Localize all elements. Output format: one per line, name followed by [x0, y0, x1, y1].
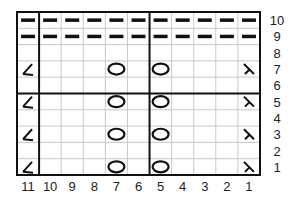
left-lean-decrease-icon: [23, 64, 33, 75]
column-label: 11: [21, 179, 35, 194]
knitting-chart: 1110987654321 10987654321: [0, 0, 293, 206]
yarn-over-circle-icon: [108, 129, 124, 140]
right-lean-decrease-icon: [244, 129, 254, 139]
column-label: 7: [113, 179, 120, 194]
row-label: 6: [273, 78, 280, 93]
column-label: 5: [157, 179, 164, 194]
row-label: 1: [273, 160, 280, 175]
column-label: 10: [43, 179, 57, 194]
yarn-over-circle-icon: [108, 64, 124, 75]
yarn-over-circle-icon: [153, 64, 169, 75]
yarn-over-circle-icon: [108, 96, 124, 107]
left-lean-decrease-icon: [23, 97, 33, 108]
row-label: 4: [273, 111, 280, 126]
row-label: 2: [273, 144, 280, 159]
chart-symbols: [21, 20, 256, 173]
row-label: 9: [273, 29, 280, 44]
column-label: 4: [179, 179, 186, 194]
column-label: 6: [135, 179, 142, 194]
column-label: 2: [223, 179, 230, 194]
yarn-over-circle-icon: [153, 161, 169, 172]
column-label: 8: [91, 179, 98, 194]
right-lean-decrease-icon: [244, 162, 254, 172]
left-lean-decrease-icon: [23, 162, 33, 173]
row-label: 7: [273, 62, 280, 77]
right-lean-decrease-icon: [244, 97, 254, 107]
column-labels: 1110987654321: [21, 179, 252, 194]
yarn-over-circle-icon: [108, 161, 124, 172]
column-label: 9: [69, 179, 76, 194]
left-lean-decrease-icon: [23, 129, 33, 140]
right-lean-decrease-icon: [244, 64, 254, 74]
column-label: 3: [201, 179, 208, 194]
row-labels: 10987654321: [270, 13, 284, 175]
yarn-over-circle-icon: [153, 96, 169, 107]
row-label: 10: [270, 13, 284, 28]
yarn-over-circle-icon: [153, 129, 169, 140]
row-label: 3: [273, 127, 280, 142]
row-label: 5: [273, 95, 280, 110]
row-label: 8: [273, 46, 280, 61]
column-label: 1: [245, 179, 252, 194]
